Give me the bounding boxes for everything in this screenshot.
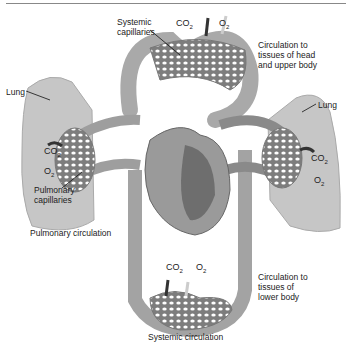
left-pulmonary-capillary-bed	[55, 128, 95, 192]
co2-label-right: CO2	[311, 153, 328, 165]
co2-label-upper: CO2	[176, 18, 193, 30]
co2-label-left: CO2	[44, 146, 61, 158]
pulmonary-circulation-label: Pulmonary circulation	[30, 228, 111, 238]
o2-arrow-lower	[186, 282, 188, 296]
o2-label-upper: O2	[219, 18, 229, 30]
o2-label-left: O2	[44, 166, 54, 178]
lung-left-label: Lung	[6, 87, 25, 97]
lower-body-label: Circulation to tissues of lower body	[258, 272, 308, 302]
pulmonary-capillaries-label: Pulmonary capillaries	[34, 185, 75, 205]
systemic-capillary-bed-upper	[150, 39, 246, 90]
lung-right-label: Lung	[318, 100, 337, 110]
systemic-circulation-label: Systemic circulation	[148, 332, 223, 342]
o2-label-lower: O2	[196, 262, 206, 274]
o2-label-right: O2	[314, 175, 324, 187]
co2-arrow-lower	[166, 280, 168, 296]
right-pulmonary-capillary-bed	[262, 128, 302, 188]
co2-arrow-upper	[206, 18, 208, 36]
co2-label-lower: CO2	[166, 262, 183, 274]
head-upper-body-label: Circulation to tissues of head and upper…	[258, 40, 317, 70]
systemic-capillaries-label: Systemic capillaries	[117, 17, 155, 37]
